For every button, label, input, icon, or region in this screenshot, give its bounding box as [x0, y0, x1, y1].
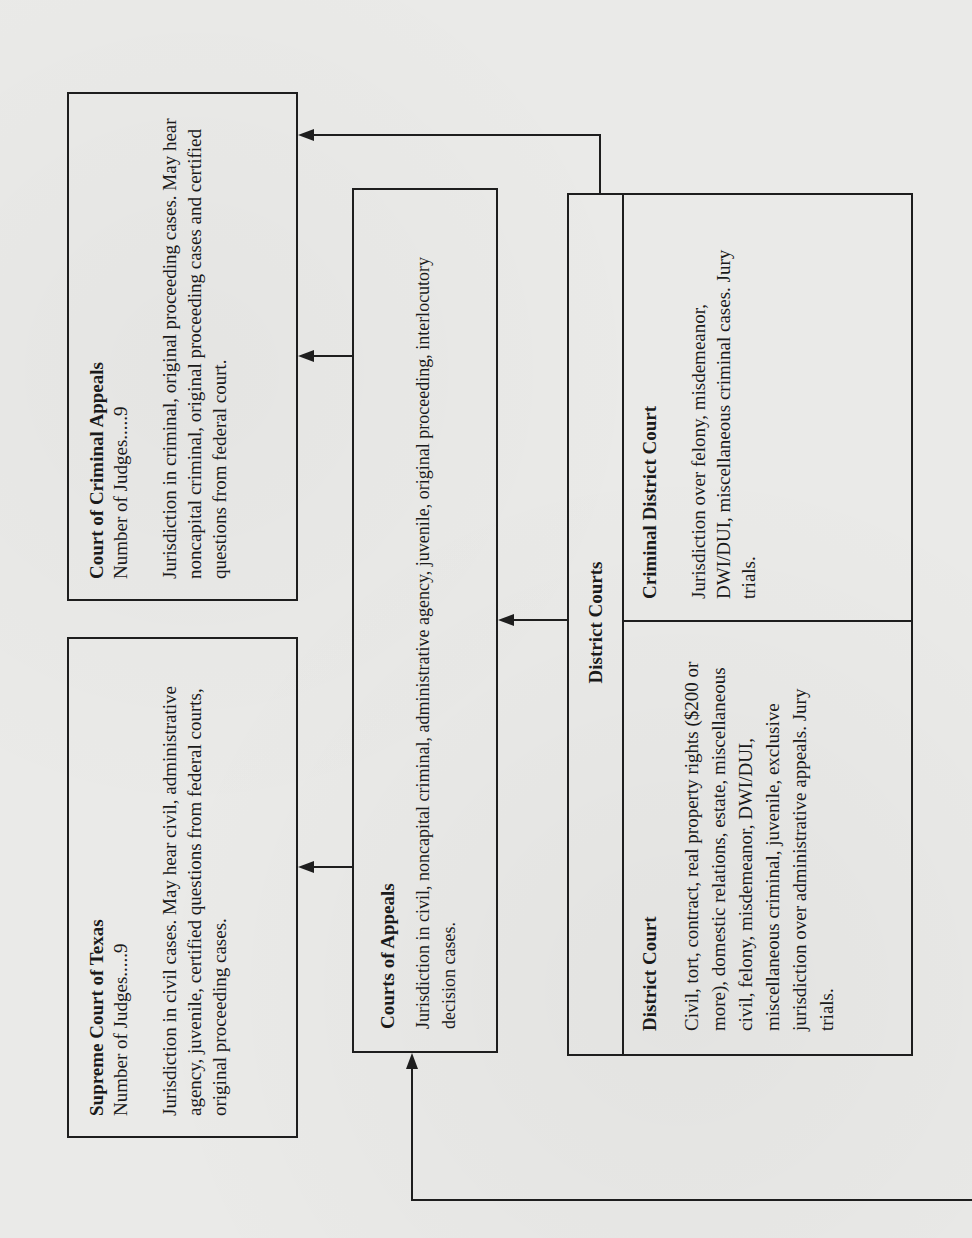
supreme-court-title: Supreme Court of Texas [85, 665, 109, 1116]
criminal-district-court-title: Criminal District Court [638, 218, 662, 599]
courts-of-appeals-description: Jurisdiction in civil, noncapital crimin… [410, 216, 462, 1029]
criminal-district-court-description: Jurisdiction over felony, misdemeanor, D… [686, 218, 761, 599]
court-of-criminal-appeals-judges: Number of Judges.....9 [109, 110, 133, 579]
courts-of-appeals-box: Courts of Appeals Jurisdiction in civil,… [352, 188, 498, 1053]
district-court-description: Civil, tort, contract, real property rig… [678, 652, 840, 1031]
arrow-to-cca-icon [298, 350, 314, 362]
supreme-court-judges: Number of Judges.....9 [109, 665, 133, 1116]
connector-coa-to-supreme [312, 866, 352, 868]
district-court-title: District Court [638, 652, 662, 1031]
connector-coa-to-cca [312, 355, 352, 357]
supreme-court-box: Supreme Court of Texas Number of Judges.… [67, 637, 298, 1138]
court-of-criminal-appeals-title: Court of Criminal Appeals [85, 110, 109, 579]
connector-offpage-vertical [411, 1068, 413, 1201]
arrow-to-coa-icon [498, 614, 514, 626]
connector-dc-up [599, 134, 601, 194]
arrow-to-supreme-icon [298, 861, 314, 873]
connector-dc-to-coa [512, 619, 567, 621]
court-of-criminal-appeals-description: Jurisdiction in criminal, original proce… [157, 110, 232, 579]
connector-offpage-horizontal [411, 1199, 972, 1201]
connector-dc-to-cca [312, 134, 601, 136]
district-courts-header: District Courts [584, 562, 608, 684]
arrow-dc-to-cca-icon [298, 129, 314, 141]
court-of-criminal-appeals-box: Court of Criminal Appeals Number of Judg… [67, 92, 298, 601]
district-court-section: District Court Civil, tort, contract, re… [622, 622, 910, 1053]
arrow-up-to-coa-icon [406, 1053, 418, 1069]
criminal-district-court-section: Criminal District Court Jurisdiction ove… [622, 196, 910, 621]
courts-of-appeals-title: Courts of Appeals [376, 216, 400, 1029]
supreme-court-description: Jurisdiction in civil cases. May hear ci… [157, 665, 232, 1116]
